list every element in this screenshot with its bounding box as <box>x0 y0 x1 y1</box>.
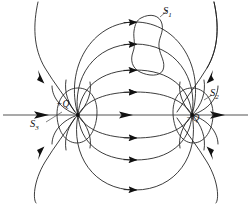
outer-arrow-lower-right <box>207 147 214 161</box>
surface-label-s2-sub: 2 <box>215 93 219 101</box>
surface-label-s3-sub: 3 <box>35 124 39 132</box>
dipole-field-diagram: S1 S2 S3 +Q −Q <box>0 0 251 204</box>
positive-charge-dot <box>76 113 80 117</box>
dipole-field-svg <box>0 0 251 204</box>
surface-label-s1-sub: 1 <box>168 11 172 19</box>
positive-charge-label: +Q <box>56 100 69 110</box>
field-line <box>76 115 193 190</box>
near-field-line <box>78 82 91 115</box>
outer-field-line <box>34 118 75 203</box>
negative-charge-label: −Q <box>186 114 199 124</box>
field-lines-lower <box>76 115 193 190</box>
leader-s3 <box>46 112 62 122</box>
outer-field-line <box>35 2 75 112</box>
outer-arrow-upper-right <box>207 70 214 84</box>
outer-field-line <box>177 118 218 203</box>
surface-label-s3: S3 <box>30 119 39 132</box>
field-line <box>77 44 193 115</box>
field-line <box>78 92 192 115</box>
surface-label-s1: S1 <box>163 6 172 19</box>
surface-label-s2: S2 <box>210 88 219 101</box>
outer-arrow-upper-left <box>37 70 44 84</box>
outer-arrow-lower-left <box>37 147 44 161</box>
